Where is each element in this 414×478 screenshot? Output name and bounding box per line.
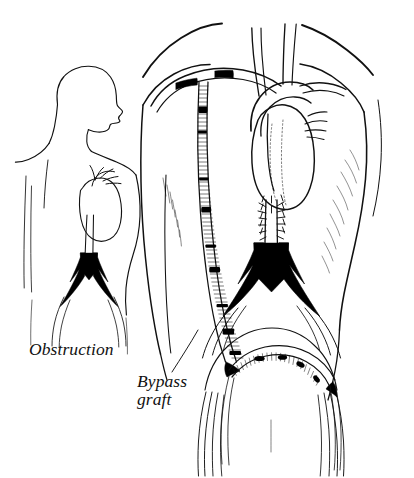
figure-background: [0, 0, 414, 478]
label-bypass-graft-line2: graft: [137, 389, 172, 409]
graft-proximal-anastomosis: [215, 70, 233, 78]
label-bypass-graft: Bypassgraft: [137, 372, 187, 408]
label-bypass-graft-line1: Bypass: [137, 371, 187, 391]
medical-illustration-figure: Obstruction Bypassgraft: [0, 0, 414, 478]
inset-descending-aorta-right: [93, 215, 94, 253]
illustration-canvas: [0, 0, 414, 478]
label-obstruction: Obstruction: [29, 340, 114, 358]
